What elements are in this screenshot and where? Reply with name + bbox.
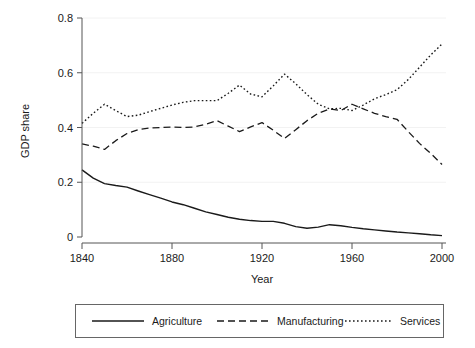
legend-label-agriculture: Agriculture	[152, 315, 202, 327]
chart-background	[0, 0, 475, 348]
x-tick-label: 2000	[430, 252, 454, 264]
legend-label-services: Services	[400, 315, 440, 327]
x-tick-label: 1880	[160, 252, 184, 264]
y-tick-label: 0.4	[58, 122, 73, 134]
x-tick-label: 1840	[70, 252, 94, 264]
x-tick-label: 1960	[340, 252, 364, 264]
y-tick-label: 0.6	[58, 67, 73, 79]
gdp-share-line-chart: 00.20.40.60.8 18401880192019602000 GDP s…	[0, 0, 475, 348]
y-tick-label: 0.8	[58, 12, 73, 24]
legend-label-manufacturing: Manufacturing	[277, 315, 344, 327]
y-tick-label: 0	[67, 231, 73, 243]
x-axis-title: Year	[251, 273, 274, 285]
y-axis-title: GDP share	[19, 104, 31, 158]
y-tick-label: 0.2	[58, 176, 73, 188]
x-tick-label: 1920	[250, 252, 274, 264]
